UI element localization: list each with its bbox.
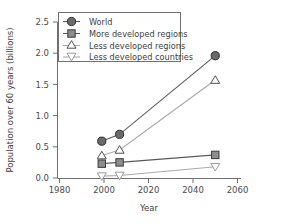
x-axis: 1980 2000 2020 2040 2060 Year <box>49 179 249 214</box>
y-tick-label-0.0: 0.0 <box>35 173 49 183</box>
chart-legend: World More developed regions Less develo… <box>59 13 194 63</box>
data-point-marker <box>98 137 106 145</box>
x-axis-title: Year <box>139 203 159 213</box>
data-point-marker <box>98 160 105 167</box>
data-point-marker <box>115 146 124 154</box>
legend-label-more-developed-regions: More developed regions <box>89 29 188 39</box>
data-point-marker <box>211 76 220 84</box>
data-point-marker <box>97 173 106 181</box>
x-tick-label-2000: 2000 <box>93 185 115 195</box>
y-tick-label-1.0: 1.0 <box>35 111 49 121</box>
line-chart: 2.5 2.0 1.5 1.0 0.5 0.0 Population over … <box>0 0 292 224</box>
y-tick-label-2.0: 2.0 <box>35 48 49 58</box>
y-tick-label-0.5: 0.5 <box>35 142 49 152</box>
y-axis-title: Population over 60 years (billions) <box>5 27 15 172</box>
series-less-developed-regions <box>97 76 219 159</box>
data-point-marker <box>211 52 219 60</box>
data-point-marker <box>212 151 219 158</box>
series-line-less-developed-regions <box>102 80 215 156</box>
legend-label-less-developed-regions: Less developed regions <box>89 41 185 51</box>
circle-filled-marker-icon <box>67 17 75 25</box>
x-tick-label-2020: 2020 <box>138 185 160 195</box>
y-axis: 2.5 2.0 1.5 1.0 0.5 0.0 Population over … <box>5 17 58 183</box>
square-filled-marker-icon <box>68 30 75 37</box>
x-tick-label-2040: 2040 <box>182 185 204 195</box>
x-tick-label-1980: 1980 <box>49 185 71 195</box>
series-world <box>98 52 220 146</box>
series-line-world <box>102 56 215 141</box>
data-point-marker <box>115 130 123 138</box>
y-tick-label-2.5: 2.5 <box>35 17 49 27</box>
data-point-marker <box>116 159 123 166</box>
legend-label-world: World <box>89 17 112 27</box>
legend-label-less-developed-countries: Less developed countries <box>89 52 193 62</box>
x-tick-label-2060: 2060 <box>227 185 249 195</box>
y-tick-label-1.5: 1.5 <box>35 80 49 90</box>
chart-container: 2.5 2.0 1.5 1.0 0.5 0.0 Population over … <box>0 0 292 224</box>
